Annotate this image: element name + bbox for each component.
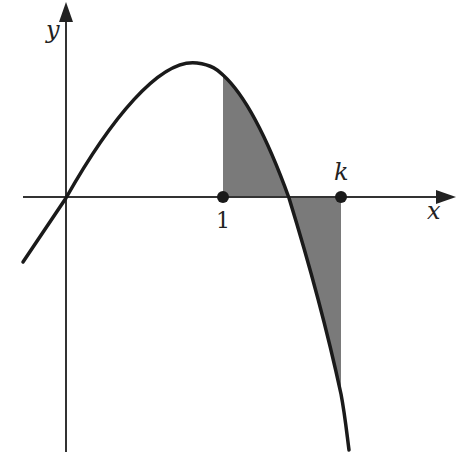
function-curve [23,63,349,450]
x-axis-label: x [427,197,441,225]
y-axis-arrow-icon [59,2,73,22]
shaded-region-above [223,75,289,198]
y-axis-label: y [45,16,60,44]
point-k-marker [335,191,347,203]
point-one-label: 1 [216,208,230,233]
point-one-marker [217,191,229,203]
graph: y x 1 k [0,0,468,462]
point-k-label: k [334,158,349,186]
